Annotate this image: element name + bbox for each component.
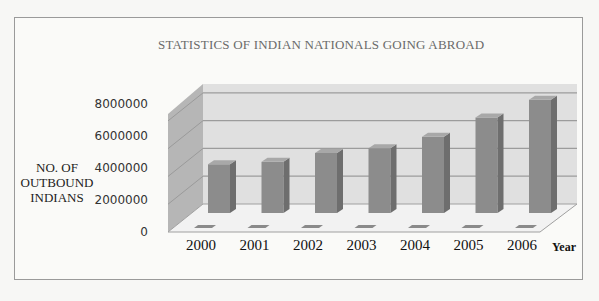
x-tick-label: 2006: [497, 237, 547, 254]
plot-area: [0, 0, 599, 301]
x-tick-label: 2002: [283, 237, 333, 254]
x-tick-label: 2003: [337, 237, 387, 254]
x-tick-label: 2000: [176, 237, 226, 254]
x-axis-title: Year: [552, 240, 576, 255]
x-tick-label: 2005: [444, 237, 494, 254]
x-tick-label: 2004: [390, 237, 440, 254]
x-tick-label: 2001: [230, 237, 280, 254]
